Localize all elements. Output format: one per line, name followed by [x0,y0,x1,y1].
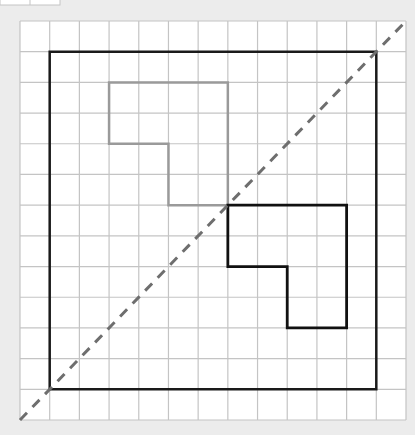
top-fragment-cells [0,0,60,5]
reflection-diagram [0,0,415,435]
